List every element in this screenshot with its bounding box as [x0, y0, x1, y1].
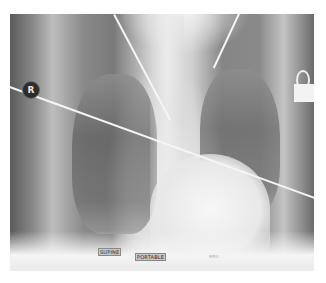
diaphragm-region [10, 231, 314, 271]
ecg-pad [294, 84, 314, 102]
side-marker-icon: R [22, 81, 40, 99]
right-lung [72, 74, 157, 234]
position-label: SUPINE [98, 248, 121, 256]
technique-label: PORTABLE [135, 253, 166, 261]
small-annotation: MRU [208, 254, 220, 260]
chest-xray-image: R SUPINE PORTABLE MRU [10, 14, 314, 271]
